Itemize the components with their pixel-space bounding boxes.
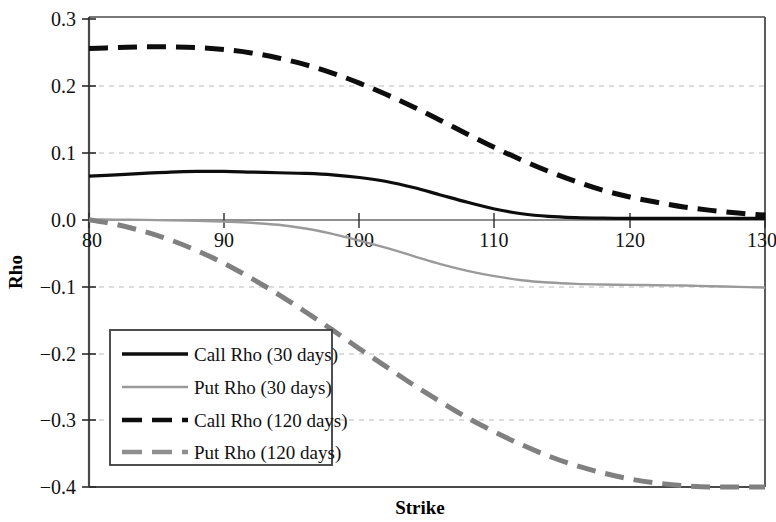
ytick-label-6: −0.3: [40, 409, 76, 431]
ytick-label-0: 0.3: [51, 8, 76, 30]
chart-canvas: 0.3 0.2 0.1 0.0 −0.1 −0.2 −0.3 −0.4 80 9…: [0, 0, 776, 522]
legend-label-0: Call Rho (30 days): [194, 344, 338, 366]
ytick-label-3: 0.0: [51, 209, 76, 231]
legend-label-1: Put Rho (30 days): [194, 377, 332, 399]
legend-label-2: Call Rho (120 days): [194, 410, 348, 432]
rho-vs-strike-chart: 0.3 0.2 0.1 0.0 −0.1 −0.2 −0.3 −0.4 80 9…: [0, 0, 776, 522]
y-axis-title: Rho: [5, 255, 26, 289]
x-axis-title: Strike: [395, 497, 445, 518]
xtick-label-3: 110: [479, 229, 508, 251]
legend: Call Rho (30 days) Put Rho (30 days) Cal…: [110, 330, 348, 465]
ytick-label-2: 0.1: [51, 142, 76, 164]
legend-label-3: Put Rho (120 days): [194, 442, 341, 464]
xtick-label-5: 130: [747, 229, 776, 251]
ytick-label-1: 0.2: [51, 75, 76, 97]
ytick-label-4: −0.1: [40, 276, 76, 298]
ytick-label-7: −0.4: [40, 476, 76, 498]
ytick-label-5: −0.2: [40, 343, 76, 365]
xtick-label-0: 80: [82, 229, 102, 251]
xtick-label-1: 90: [214, 229, 234, 251]
xtick-label-4: 120: [615, 229, 645, 251]
